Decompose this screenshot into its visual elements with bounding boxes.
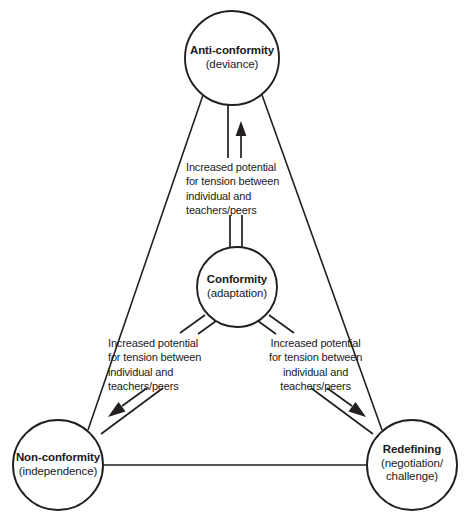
edge-label-line-3: individual and — [186, 189, 279, 203]
edge-label-anti-conformity: Increased potential for tension between … — [186, 160, 279, 218]
edge-label-line-2: for tension between — [269, 350, 362, 364]
arrow-up-head — [236, 121, 247, 136]
diagram-canvas: Anti-conformity (deviance) Conformity (a… — [0, 0, 469, 520]
edge-label-line-4: teachers/peers — [269, 379, 362, 393]
node-circle-conformity[interactable] — [197, 247, 277, 327]
edge-label-line-4: teachers/peers — [186, 203, 279, 217]
edge-label-non-conformity: Increased potential for tension between … — [108, 336, 201, 394]
diagram-svg — [0, 0, 469, 520]
edge-label-line-3: individual and — [108, 365, 201, 379]
edge-label-line-1: Increased potential — [269, 336, 362, 350]
node-circle-redefining[interactable] — [367, 420, 457, 510]
arrow-left-stub-inner — [198, 321, 216, 334]
edge-label-line-4: teachers/peers — [108, 379, 201, 393]
edge-label-line-3: individual and — [269, 365, 362, 379]
arrow-left-head — [108, 402, 126, 417]
edge-label-line-1: Increased potential — [108, 336, 201, 350]
edge-label-line-1: Increased potential — [186, 160, 279, 174]
edge-label-redefining: Increased potential for tension between … — [269, 336, 362, 394]
node-circle-non-conformity[interactable] — [13, 420, 103, 510]
arrow-left-shaft-outer — [101, 388, 163, 434]
arrow-right-head — [349, 402, 367, 417]
node-circle-anti-conformity[interactable] — [185, 11, 279, 105]
edge-label-line-2: for tension between — [186, 174, 279, 188]
arrow-right-shaft-outer — [311, 388, 373, 434]
arrow-left-stub-outer — [180, 315, 205, 333]
arrow-right-stub-inner — [258, 321, 276, 334]
arrow-right-stub-outer — [269, 315, 294, 333]
edge-label-line-2: for tension between — [108, 350, 201, 364]
